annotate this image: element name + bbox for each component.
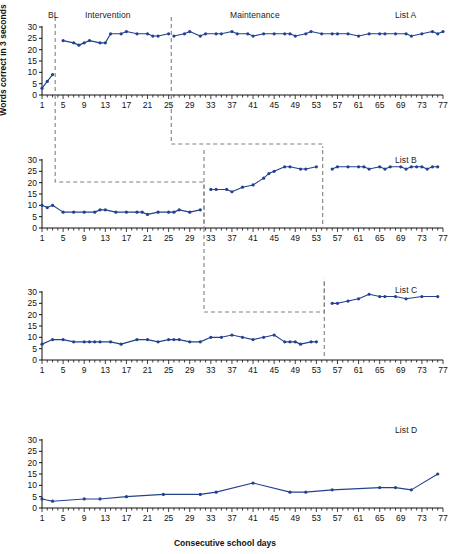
x-tick-label: 25 — [164, 513, 174, 523]
x-tick-label: 33 — [206, 365, 216, 375]
x-tick-label: 73 — [417, 513, 427, 523]
x-tick-label: 73 — [417, 365, 427, 375]
x-axis-title: Consecutive school days — [0, 538, 450, 548]
x-tick-label: 65 — [375, 233, 385, 243]
data-point — [383, 295, 386, 298]
x-tick-label: 61 — [354, 100, 364, 110]
data-point — [420, 295, 423, 298]
data-point — [251, 481, 254, 484]
data-point — [72, 340, 75, 343]
x-tick-label: 21 — [143, 365, 153, 375]
y-tick-label: 30 — [28, 155, 38, 165]
data-point — [441, 30, 444, 33]
data-point — [436, 165, 439, 168]
data-point — [336, 302, 339, 305]
data-point — [215, 188, 218, 191]
x-tick-label: 17 — [122, 365, 132, 375]
y-tick-label: 5 — [32, 492, 37, 502]
panel-list-a: 0510152025301591317212529333741454953576… — [28, 17, 448, 110]
x-tick-label: 61 — [354, 513, 364, 523]
x-tick-label: 57 — [333, 365, 343, 375]
data-point — [83, 41, 86, 44]
phase-connector-a-to-b — [55, 95, 204, 228]
data-point — [188, 211, 191, 214]
y-tick-label: 5 — [32, 344, 37, 354]
data-point — [362, 165, 365, 168]
data-point — [404, 32, 407, 35]
data-point — [135, 32, 138, 35]
x-tick-label: 29 — [185, 365, 195, 375]
data-point — [431, 165, 434, 168]
x-tick-label: 9 — [82, 100, 87, 110]
x-tick-label: 5 — [61, 513, 66, 523]
x-tick-label: 41 — [248, 233, 258, 243]
x-tick-label: 69 — [396, 513, 406, 523]
data-point — [288, 32, 291, 35]
x-tick-label: 1 — [40, 233, 45, 243]
data-point — [125, 30, 128, 33]
y-tick-label: 0 — [32, 355, 37, 365]
data-point — [288, 340, 291, 343]
x-tick-label: 29 — [185, 233, 195, 243]
data-point — [394, 486, 397, 489]
data-point — [294, 340, 297, 343]
x-tick-label: 29 — [185, 513, 195, 523]
data-point — [262, 32, 265, 35]
y-tick-label: 0 — [32, 223, 37, 233]
data-point — [83, 211, 86, 214]
data-point — [304, 32, 307, 35]
y-tick-label: 15 — [28, 321, 38, 331]
y-tick-label: 15 — [28, 469, 38, 479]
data-point — [288, 491, 291, 494]
y-tick-label: 20 — [28, 310, 38, 320]
data-point — [320, 32, 323, 35]
series-line — [174, 32, 443, 37]
data-point — [357, 34, 360, 37]
data-point — [246, 32, 249, 35]
x-tick-label: 45 — [269, 513, 279, 523]
x-tick-label: 49 — [291, 365, 301, 375]
y-tick-label: 20 — [28, 45, 38, 55]
data-point — [378, 486, 381, 489]
data-point — [378, 165, 381, 168]
x-tick-label: 73 — [417, 233, 427, 243]
data-point — [404, 167, 407, 170]
data-point — [283, 340, 286, 343]
data-point — [46, 80, 49, 83]
data-point — [146, 32, 149, 35]
x-tick-label: 61 — [354, 365, 364, 375]
data-point — [46, 206, 49, 209]
data-point — [88, 340, 91, 343]
phase-header-baseline: BL — [48, 10, 59, 20]
x-tick-label: 41 — [248, 365, 258, 375]
x-tick-label: 25 — [164, 100, 174, 110]
data-point — [383, 32, 386, 35]
x-tick-label: 41 — [248, 513, 258, 523]
data-point — [199, 493, 202, 496]
data-point — [273, 333, 276, 336]
x-tick-label: 21 — [143, 100, 153, 110]
data-point — [283, 165, 286, 168]
x-tick-label: 45 — [269, 233, 279, 243]
x-tick-label: 21 — [143, 233, 153, 243]
data-point — [77, 44, 80, 47]
data-point — [188, 30, 191, 33]
x-tick-label: 17 — [122, 233, 132, 243]
data-point — [420, 165, 423, 168]
data-point — [172, 34, 175, 37]
data-point — [251, 183, 254, 186]
data-point — [230, 30, 233, 33]
data-point — [146, 338, 149, 341]
data-point — [199, 340, 202, 343]
data-point — [62, 211, 65, 214]
data-point — [304, 167, 307, 170]
x-tick-label: 53 — [312, 365, 322, 375]
data-point — [251, 34, 254, 37]
data-point — [436, 472, 439, 475]
data-point — [225, 188, 228, 191]
series-line — [42, 205, 200, 214]
data-point — [262, 336, 265, 339]
x-tick-label: 57 — [333, 513, 343, 523]
data-point — [331, 488, 334, 491]
x-tick-label: 9 — [82, 513, 87, 523]
